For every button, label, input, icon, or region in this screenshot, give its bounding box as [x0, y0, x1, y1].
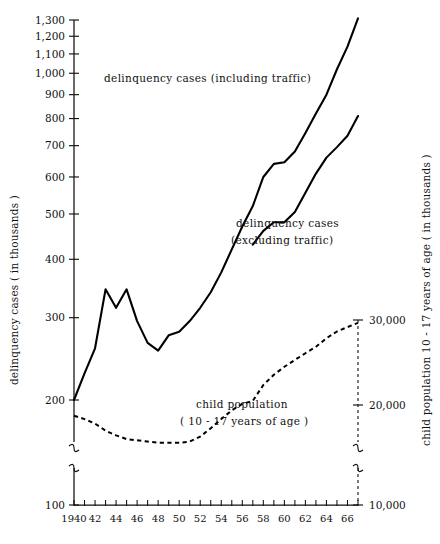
y-tick-label: 500: [45, 208, 65, 220]
x-tick-label: 42: [89, 513, 102, 524]
y-axis-right: 10,00020,00030,000: [353, 314, 406, 511]
y2-tick-label: 30,000: [369, 314, 406, 326]
y-tick-label: 1,200: [35, 30, 65, 42]
y-tick-label: 1,100: [35, 48, 65, 60]
series-annotation: child population: [196, 398, 288, 410]
y-tick-label: 1,300: [35, 14, 65, 26]
x-tick-label: 44: [110, 513, 123, 524]
y2-tick-label: 20,000: [369, 399, 406, 411]
y-axis-title: delinquency cases ( in thousands ): [8, 195, 20, 385]
series-annotation: delinquency cases: [236, 217, 339, 229]
chart-svg: 1002003004005006007008009001,0001,1001,2…: [0, 0, 440, 544]
y-tick-label: 700: [45, 139, 65, 151]
x-axis-bottom: 194042444648505254565860626466: [61, 500, 358, 524]
x-tick-label: 54: [215, 513, 228, 524]
series-annotations: delinquency cases (including traffic)del…: [104, 72, 339, 427]
y-axis-left: 1002003004005006007008009001,0001,1001,2…: [35, 14, 79, 511]
x-tick-label: 62: [299, 513, 312, 524]
y2-tick-label: 10,000: [369, 499, 406, 511]
y-tick-label: 900: [45, 88, 65, 100]
y-tick-label: 800: [45, 112, 65, 124]
series-annotation: delinquency cases (including traffic): [104, 72, 311, 84]
series-annotation: ( 10 - 17 years of age ): [180, 415, 308, 427]
x-tick-label: 58: [257, 513, 270, 524]
x-tick-label: 48: [152, 513, 165, 524]
series-annotation: (excluding traffic): [231, 234, 333, 246]
y-tick-label: 200: [45, 394, 65, 406]
x-tick-label: 52: [194, 513, 207, 524]
x-tick-label: 50: [173, 513, 186, 524]
x-tick-label: 66: [341, 513, 354, 524]
x-tick-label: 56: [236, 513, 249, 524]
chart-figure: 1002003004005006007008009001,0001,1001,2…: [0, 0, 440, 544]
y-tick-label: 300: [45, 311, 65, 323]
y-tick-label: 1,000: [35, 67, 65, 79]
y2-axis-title: child population 10 - 17 years of age ( …: [420, 154, 432, 446]
x-tick-label: 46: [131, 513, 144, 524]
x-tick-label: 64: [320, 513, 333, 524]
x-tick-label: 60: [278, 513, 291, 524]
y-tick-label: 100: [45, 499, 65, 511]
x-tick-label: 1940: [61, 513, 86, 524]
y-tick-label: 400: [45, 253, 65, 265]
y-tick-label: 600: [45, 171, 65, 183]
